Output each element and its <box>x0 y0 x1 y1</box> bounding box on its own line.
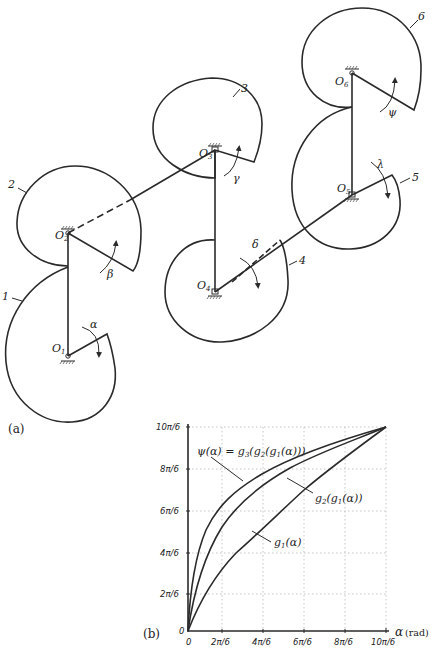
y-tick-4pi6: 4π/6 <box>160 548 179 558</box>
pivot-o3-label: O3 <box>199 147 213 161</box>
y-tick-6pi6: 6π/6 <box>160 506 179 516</box>
y-tick-2pi6: 2π/6 <box>160 589 179 599</box>
gear-6-outline <box>302 8 421 110</box>
gear-6-label: 6 <box>418 10 425 23</box>
gear-4-outline <box>165 240 288 342</box>
x-tick-10pi6: 10π/6 <box>371 637 396 647</box>
y-tick-8pi6: 8π/6 <box>160 464 179 474</box>
figure-canvas: 1 2 3 4 5 6 O1 O2 O3 O4 O5 O6 α β γ δ λ … <box>0 0 434 653</box>
x-tick-4pi6: 4π/6 <box>252 637 271 647</box>
annotation-psi: ψ(α) = g3(g2(g1(α))) <box>197 445 306 459</box>
x-tick-0: 0 <box>186 637 191 647</box>
angle-alpha-label: α <box>90 318 98 331</box>
gear-5-label: 5 <box>412 171 419 184</box>
gear-4-label: 4 <box>298 254 306 267</box>
gear-train-diagram: 1 2 3 4 5 6 O1 O2 O3 O4 O5 O6 α β γ δ λ … <box>2 8 425 422</box>
x-tick-8pi6: 8π/6 <box>334 637 353 647</box>
angle-lambda-label: λ <box>376 158 384 171</box>
angle-beta-label: β <box>106 268 113 281</box>
x-tick-2pi6: 2π/6 <box>211 637 230 647</box>
pivot-o4-label: O4 <box>197 279 211 293</box>
pivot-o6-label: O6 <box>335 75 349 89</box>
link-o2-o3-dashed <box>68 200 130 233</box>
angle-psi-label: ψ <box>388 106 397 119</box>
angle-alpha-arrow <box>82 327 99 355</box>
panel-a-label: (a) <box>8 422 25 436</box>
annotation-g1: g1(α) <box>274 536 302 550</box>
panel-b-label: (b) <box>143 627 160 641</box>
gear-2-outline <box>17 166 141 271</box>
pivot-o1-label: O1 <box>52 342 66 356</box>
angle-gamma-label: γ <box>233 172 240 185</box>
gear-2-label: 2 <box>7 178 15 191</box>
angle-delta-label: δ <box>252 238 259 251</box>
annotation-g2-g1: g2(g1(α)) <box>315 492 363 506</box>
y-tick-0: 0 <box>179 626 184 636</box>
x-axis-label: α(rad) <box>395 625 429 639</box>
y-tick-10pi6: 10π/6 <box>156 422 181 432</box>
transmission-chart: 10π/6 8π/6 6π/6 4π/6 2π/6 0 0 2π/6 4π/6 … <box>156 422 429 647</box>
link-o4-o5 <box>215 195 352 292</box>
gear-3-label: 3 <box>241 82 248 95</box>
gear-1-label: 1 <box>2 290 9 303</box>
x-tick-6pi6: 6π/6 <box>293 637 312 647</box>
pivot-o5-label: O5 <box>337 182 351 196</box>
